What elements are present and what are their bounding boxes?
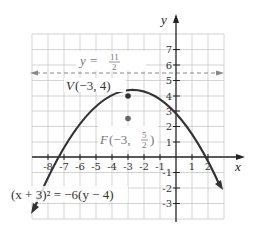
svg-text:-5: -5 xyxy=(91,161,101,172)
svg-text:): ) xyxy=(150,132,154,147)
arrow-left-icon xyxy=(30,71,38,76)
equation-label: (x + 3)² = −6(y − 4) xyxy=(10,186,128,202)
svg-text:-7: -7 xyxy=(59,161,69,172)
svg-text:11: 11 xyxy=(110,52,119,62)
svg-text:F: F xyxy=(99,132,109,147)
svg-text:2: 2 xyxy=(112,62,117,72)
svg-text:5: 5 xyxy=(166,75,172,86)
svg-text:1: 1 xyxy=(189,161,195,172)
svg-text:(x + 3)² = −6(y − 4): (x + 3)² = −6(y − 4) xyxy=(11,187,114,202)
svg-text:-6: -6 xyxy=(75,161,85,172)
focus-label: F (−3, 5 2 ) xyxy=(98,126,158,150)
svg-text:-3: -3 xyxy=(123,161,133,172)
svg-text:(−3,: (−3, xyxy=(109,132,130,147)
directrix-label: y = 11 2 xyxy=(76,51,146,72)
svg-text:7: 7 xyxy=(166,44,172,55)
focus-point xyxy=(125,116,131,122)
svg-text:-2: -2 xyxy=(139,161,149,172)
svg-text:y =: y = xyxy=(78,53,98,68)
parabola-graph: y x -8 -7 -6 -5 -4 -3 -2 -1 1 2 xyxy=(0,0,256,233)
svg-text:5: 5 xyxy=(142,130,147,140)
curve-arrow-right-icon xyxy=(215,180,223,190)
svg-text:1: 1 xyxy=(166,137,172,148)
x-tick-labels: -8 -7 -6 -5 -4 -3 -2 -1 1 2 xyxy=(43,161,211,172)
x-axis-label: x xyxy=(234,159,241,174)
svg-text:-3: -3 xyxy=(162,198,172,209)
arrow-right-icon xyxy=(216,71,224,76)
svg-text:4: 4 xyxy=(166,91,172,102)
directrix-line xyxy=(30,71,224,76)
y-axis-label: y xyxy=(159,12,167,27)
svg-text:-2: -2 xyxy=(162,183,172,194)
svg-text:6: 6 xyxy=(166,60,172,71)
svg-text:2: 2 xyxy=(166,121,172,132)
svg-text:(−3, 4): (−3, 4) xyxy=(75,78,111,93)
svg-text:-1: -1 xyxy=(162,167,172,178)
svg-text:2: 2 xyxy=(142,140,147,150)
svg-text:-4: -4 xyxy=(107,161,117,172)
y-axis-arrow-icon xyxy=(173,14,179,23)
vertex-label: V (−3, 4) xyxy=(64,78,126,93)
vertex-point xyxy=(125,93,131,99)
